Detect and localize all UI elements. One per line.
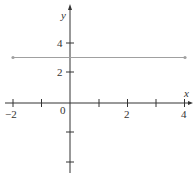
y-tick-label-4: 4 — [57, 37, 63, 49]
y-axis — [66, 4, 74, 173]
origin-label: 0 — [60, 104, 66, 116]
y-axis-label: y — [60, 9, 66, 21]
x-tick-label-4: 4 — [181, 108, 187, 120]
x-axis — [5, 99, 193, 107]
chart: y x 4 2 0 −2 2 4 — [0, 0, 194, 175]
x-axis-label: x — [183, 87, 189, 99]
left-endpoint — [11, 56, 14, 59]
x-tick-label-2: 2 — [124, 108, 130, 120]
right-endpoint — [183, 56, 186, 59]
series-line-y-equals-3 — [11, 56, 186, 59]
y-axis-arrow-icon — [68, 4, 72, 10]
y-tick-label-2: 2 — [57, 66, 63, 78]
x-axis-arrow-icon — [188, 101, 193, 105]
x-tick-label-neg2: −2 — [5, 108, 17, 120]
